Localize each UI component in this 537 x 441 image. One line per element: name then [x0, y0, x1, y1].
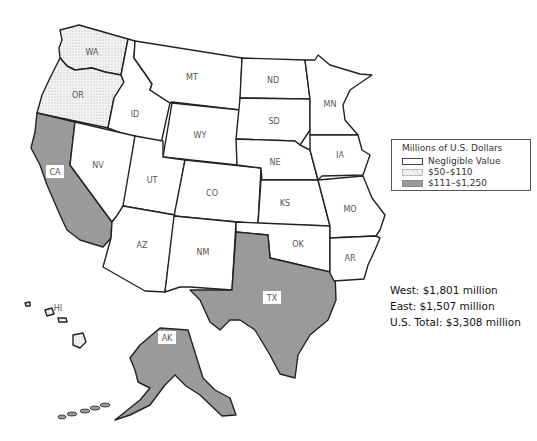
aleutian-island: [58, 415, 66, 419]
legend-swatch-low: [402, 169, 423, 176]
state-label-ut: UT: [147, 176, 158, 185]
state-label-id: ID: [131, 110, 140, 119]
state-label-ia: IA: [336, 151, 344, 160]
state-label-ca: CA: [49, 168, 61, 177]
state-label-co: CO: [206, 189, 218, 198]
state-label-ks: KS: [280, 199, 290, 208]
state-label-az: AZ: [137, 241, 148, 250]
state-label-nv: NV: [92, 161, 104, 170]
state-label-ak: AK: [162, 334, 173, 343]
choropleth-map: WAORCAIDNVMTWYUTCOAZNMNDSDNEKSOKTXMNIAMO…: [0, 0, 537, 441]
east-total: East: $1,507 million: [390, 298, 521, 314]
legend-swatch-negligible: [402, 158, 423, 165]
us-total: U.S. Total: $3,308 million: [390, 314, 521, 330]
legend-item-high: $111–$1,250: [402, 178, 487, 188]
totals-block: West: $1,801 million East: $1,507 millio…: [390, 282, 521, 330]
aleutian-island: [90, 406, 100, 410]
state-label-ne: NE: [269, 158, 280, 167]
aleutian-island: [67, 412, 77, 416]
legend-title: Millions of U.S. Dollars: [402, 143, 502, 153]
state-label-mo: MO: [343, 205, 356, 214]
state-label-wy: WY: [194, 131, 207, 140]
legend-item-low: $50–$110: [402, 167, 473, 177]
legend-label: $50–$110: [428, 167, 473, 177]
state-label-mt: MT: [186, 73, 198, 82]
legend: Millions of U.S. Dollars Negligible Valu…: [391, 139, 531, 191]
state-label-tx: TX: [266, 294, 278, 303]
state-label-nm: NM: [197, 248, 210, 257]
state-label-ar: AR: [344, 254, 355, 263]
west-total: West: $1,801 million: [390, 282, 521, 298]
legend-label: Negligible Value: [428, 156, 501, 166]
legend-item-negligible: Negligible Value: [402, 156, 501, 166]
aleutian-island: [100, 403, 110, 407]
legend-swatch-high: [402, 180, 423, 187]
state-label-or: OR: [72, 91, 84, 100]
state-label-wa: WA: [86, 48, 99, 57]
state-mn: [305, 55, 372, 135]
state-label-ok: OK: [292, 240, 304, 249]
legend-label: $111–$1,250: [428, 178, 487, 188]
state-label-mn: MN: [324, 100, 337, 109]
aleutian-island: [80, 409, 90, 413]
state-label-hi: HI: [54, 304, 62, 313]
state-label-sd: SD: [268, 117, 279, 126]
state-label-nd: ND: [267, 76, 279, 85]
